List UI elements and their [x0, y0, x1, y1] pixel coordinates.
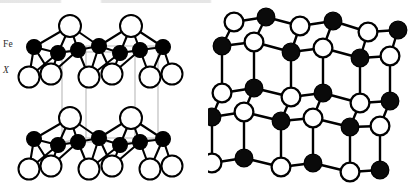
atom-Fe: [51, 46, 66, 61]
atom-X: [120, 15, 142, 37]
atom-Fe: [324, 12, 342, 30]
atom-Fe: [304, 154, 322, 172]
atom-X: [371, 117, 390, 136]
atom-Fe: [27, 132, 42, 147]
atom-X: [140, 159, 161, 180]
lower-slab-X-apex-row: [59, 107, 142, 129]
label-fe: Fe: [3, 39, 13, 49]
atom-Fe: [133, 135, 148, 150]
atom-X: [102, 64, 123, 85]
atom-Fe: [51, 138, 66, 153]
atom-X: [79, 67, 100, 88]
atom-X: [235, 103, 254, 122]
atom-X: [120, 107, 142, 129]
atom-X: [282, 88, 301, 107]
atom-Fe: [381, 92, 399, 110]
atom-Fe: [92, 39, 107, 54]
atom-Fe: [71, 43, 86, 58]
atom-Fe: [314, 84, 332, 102]
atom-X: [79, 159, 100, 180]
atom-X: [341, 163, 360, 182]
atom-X: [245, 33, 264, 52]
atom-X: [19, 67, 40, 88]
atom-Fe: [282, 43, 300, 61]
atom-X: [272, 158, 291, 177]
atom-X: [213, 84, 232, 103]
atom-X: [162, 156, 183, 177]
atom-Fe: [208, 108, 221, 126]
atom-X: [359, 23, 378, 42]
upper-slab-X-apex-row: [59, 15, 142, 37]
figure-root: Fe X: [0, 0, 416, 188]
atom-Fe: [371, 161, 389, 179]
atom-X: [59, 107, 81, 129]
atom-Fe: [213, 37, 231, 55]
atom-X: [19, 159, 40, 180]
atom-Fe: [245, 79, 263, 97]
atom-Fe: [27, 40, 42, 55]
atom-Fe: [113, 46, 128, 61]
atom-X: [314, 39, 333, 58]
atom-Fe: [257, 8, 275, 26]
atom-X: [225, 13, 244, 32]
left-panel-layered-structure: [0, 0, 208, 188]
atom-Fe: [272, 112, 290, 130]
atom-X: [208, 154, 221, 173]
atom-X: [304, 109, 323, 128]
atom-Fe: [389, 21, 407, 39]
atom-X: [291, 17, 310, 36]
atom-X: [162, 64, 183, 85]
atom-Fe: [341, 118, 359, 136]
atom-X: [41, 156, 62, 177]
atom-Fe: [351, 49, 369, 67]
atom-X: [381, 47, 400, 66]
atom-X: [102, 156, 123, 177]
atom-X: [351, 94, 370, 113]
atom-X: [41, 64, 62, 85]
label-x: X: [3, 65, 9, 75]
atom-Fe: [235, 149, 253, 167]
right-panel-3d-lattice: [208, 0, 416, 188]
atom-Fe: [113, 138, 128, 153]
atom-Fe: [156, 132, 171, 147]
atom-X: [140, 67, 161, 88]
atom-Fe: [92, 131, 107, 146]
atom-Fe: [133, 43, 148, 58]
atom-Fe: [71, 135, 86, 150]
atom-X: [59, 15, 81, 37]
atom-Fe: [156, 40, 171, 55]
